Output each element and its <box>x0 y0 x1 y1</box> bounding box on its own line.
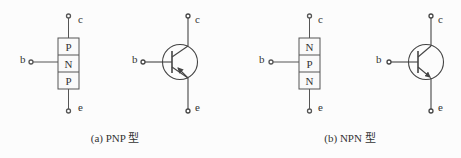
npn-block-collector-label: c <box>318 13 323 25</box>
npn-layer-1: N <box>306 41 314 53</box>
npn-symbol-collector-label: c <box>438 13 443 25</box>
base-terminal <box>29 60 33 64</box>
npn-block-emitter-label: e <box>318 101 323 113</box>
npn-block-base-label: b <box>259 53 265 65</box>
emitter-terminal <box>67 109 71 113</box>
base-terminal <box>141 60 145 64</box>
pnp-caption: (a) PNP 型 <box>91 131 139 145</box>
collector-terminal <box>186 14 190 18</box>
base-terminal <box>269 60 273 64</box>
emitter-terminal <box>308 109 312 113</box>
npn-transistor-symbol <box>387 14 444 113</box>
pnp-layer-3: P <box>65 75 71 87</box>
pnp-block-base-label: b <box>20 53 26 65</box>
emitter-terminal <box>186 109 190 113</box>
npn-symbol-emitter-label: e <box>438 101 443 113</box>
pnp-symbol-base-label: b <box>132 53 138 65</box>
collector-terminal <box>67 14 71 18</box>
npn-caption: (b) NPN 型 <box>324 131 375 145</box>
pnp-block-emitter-label: e <box>78 101 83 113</box>
pnp-symbol-emitter-label: e <box>195 101 200 113</box>
pnp-symbol-collector-label: c <box>195 13 200 25</box>
pnp-transistor-symbol <box>141 14 198 113</box>
collector-terminal <box>308 14 312 18</box>
npn-layer-2: P <box>306 58 312 70</box>
collector-terminal <box>429 14 433 18</box>
pnp-layer-1: P <box>65 41 71 53</box>
npn-layer-3: N <box>306 75 314 87</box>
transistor-diagram: P N P c e b c e b (a) PNP 型 N P N c e b <box>0 0 461 158</box>
pnp-block-collector-label: c <box>78 13 83 25</box>
pnp-layer-2: N <box>65 58 73 70</box>
npn-symbol-base-label: b <box>376 53 382 65</box>
emitter-terminal <box>429 109 433 113</box>
base-terminal <box>387 60 391 64</box>
